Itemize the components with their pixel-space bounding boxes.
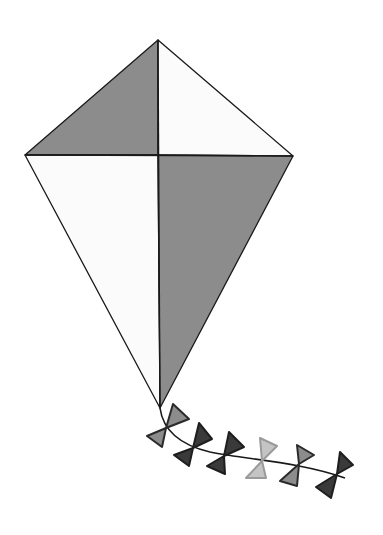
tail-bow-5 [280,445,314,486]
kite-tail-bows [147,404,353,498]
kite-panel-bottom-left [25,155,160,408]
bow-triangle-lower [316,474,337,498]
kite-panel-top-right [158,40,293,156]
kite-illustration [0,0,383,535]
kite-panel-top-left [25,40,158,155]
kite-body [25,40,293,408]
bow-triangle-upper [166,404,189,428]
bow-triangle-lower [174,448,193,466]
bow-triangle-upper [193,423,212,448]
bow-triangle-lower [207,456,225,474]
bow-triangle-upper [224,432,244,456]
bow-triangle-lower [280,464,299,486]
bow-triangle-lower [246,461,266,478]
bow-triangle-lower [147,428,166,447]
kite-drawing [0,0,383,535]
bow-triangle-upper [297,445,314,464]
kite-panel-bottom-right [158,155,293,408]
bow-triangle-upper [337,452,353,474]
tail-bow-2 [174,423,212,466]
tail-bow-6 [316,452,353,498]
bow-triangle-upper [260,438,277,461]
